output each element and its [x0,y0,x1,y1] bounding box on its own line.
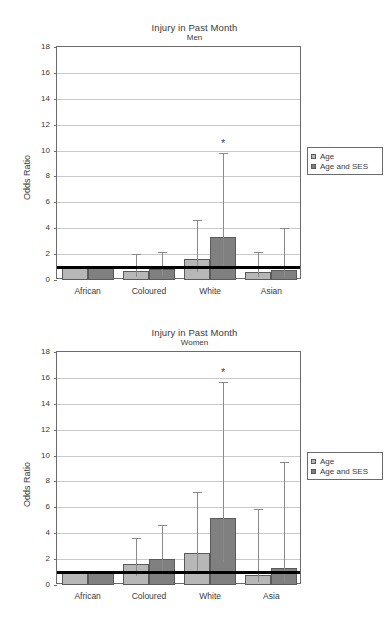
y-axis-tick [54,404,57,405]
significance-marker: * [217,367,229,378]
y-axis-tick-label: 8 [30,476,50,485]
gridline [57,176,300,177]
y-axis-tick [54,228,57,229]
y-axis-tick-label: 18 [30,347,50,356]
y-axis-tick-label: 12 [30,425,50,434]
y-axis-tick [54,456,57,457]
legend-label-age: Age [320,152,334,161]
y-axis-tick [54,280,57,281]
y-axis-tick-label: 0 [30,580,50,589]
y-axis-tick-label: 10 [30,451,50,460]
y-axis-tick [54,559,57,560]
gridline [57,559,300,560]
y-axis-tick [54,430,57,431]
gridline [57,151,300,152]
panel-title: Injury in Past Month [0,327,389,338]
y-axis-tick-label: 16 [30,68,50,77]
gridline [57,456,300,457]
figure-root: Injury in Past Month Men Odds Ratio 0246… [0,0,389,622]
error-bar [284,228,285,277]
error-bar [258,252,259,278]
legend-item-age: Age [311,151,377,161]
error-bar-cap [219,382,228,383]
gridline [57,430,300,431]
y-axis-tick [54,73,57,74]
gridline [57,378,300,379]
y-axis-tick [54,176,57,177]
error-bar [284,462,285,582]
panel-title: Injury in Past Month [0,22,389,33]
reference-line [57,266,300,269]
y-axis-tick-label: 2 [30,249,50,258]
gridline [57,481,300,482]
y-axis-tick-label: 4 [30,223,50,232]
legend: Age Age and SES [307,452,383,480]
plot-inner: 024681012141618AfricanColouredWhiteAsian… [57,47,300,278]
legend: Age Age and SES [307,147,383,175]
plot-area: 024681012141618AfricanColouredWhiteAsian… [56,46,301,279]
panel-subtitle: Women [0,338,389,347]
panel-subtitle: Men [0,33,389,42]
x-axis-tick-label: Asia [231,591,311,601]
legend-item-age: Age [311,456,377,466]
y-axis-tick-label: 4 [30,528,50,537]
gridline [57,202,300,203]
y-axis-tick [54,151,57,152]
gridline [57,533,300,534]
error-bar-cap [254,509,263,510]
error-bar-cap [158,525,167,526]
legend-swatch-icon-age-ses [311,469,316,474]
error-bar-cap [193,492,202,493]
error-bar-cap [132,254,141,255]
gridline [57,73,300,74]
y-axis-tick [54,533,57,534]
gridline [57,125,300,126]
legend-swatch-icon-age [311,459,316,464]
error-bar [197,220,198,272]
legend-swatch-icon-age [311,154,316,159]
gridline [57,404,300,405]
y-axis-tick [54,99,57,100]
chart-panel-men: Injury in Past Month Men Odds Ratio 0246… [0,0,389,311]
error-bar-cap [158,252,167,253]
y-axis-tick [54,125,57,126]
gridline [57,99,300,100]
gridline [57,254,300,255]
error-bar-cap [280,228,289,229]
gridline [57,507,300,508]
y-axis-tick-label: 14 [30,94,50,103]
y-axis-tick-label: 12 [30,120,50,129]
y-axis-tick [54,481,57,482]
reference-line [57,571,300,574]
y-axis-tick [54,47,57,48]
error-bar-cap [280,462,289,463]
y-axis-tick-label: 8 [30,171,50,180]
y-axis-tick [54,378,57,379]
error-bar [162,252,163,277]
y-axis-tick-label: 16 [30,373,50,382]
y-axis-tick-label: 0 [30,275,50,284]
y-axis-tick-label: 14 [30,399,50,408]
y-axis-tick [54,507,57,508]
y-axis-tick [54,352,57,353]
error-bar [223,382,224,562]
legend-item-age-ses: Age and SES [311,161,377,171]
gridline [57,228,300,229]
error-bar [197,492,198,572]
y-axis-tick [54,254,57,255]
plot-area: 024681012141618AfricanColouredWhiteAsia* [56,351,301,584]
legend-label-age-ses: Age and SES [320,162,368,171]
legend-swatch-icon-age-ses [311,164,316,169]
error-bar [223,153,224,266]
y-axis-tick-label: 18 [30,42,50,51]
y-axis-tick [54,202,57,203]
plot-inner: 024681012141618AfricanColouredWhiteAsia* [57,352,300,583]
error-bar-cap [132,538,141,539]
legend-item-age-ses: Age and SES [311,466,377,476]
chart-panel-women: Injury in Past Month Women Odds Ratio 02… [0,311,389,622]
legend-label-age-ses: Age and SES [320,467,368,476]
error-bar-cap [219,153,228,154]
y-axis-tick [54,585,57,586]
significance-marker: * [217,138,229,149]
y-axis-tick-label: 6 [30,502,50,511]
